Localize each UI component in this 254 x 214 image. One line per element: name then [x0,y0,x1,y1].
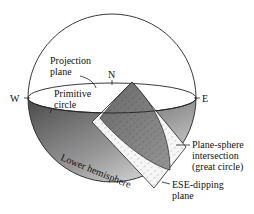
projection-plane-leader [80,76,96,88]
north-label: N [108,69,115,80]
dipping-plane-label-1: ESE-dipping [172,179,224,190]
stereonet-sphere-diagram: N W E Projection plane Primitive circle … [0,0,254,214]
projection-plane-label-1: Projection [50,55,91,66]
primitive-circle-label-1: Primitive [54,88,92,99]
dipping-plane-leader [162,182,170,184]
east-label: E [202,93,208,104]
projection-plane-label-2: plane [50,66,72,77]
intersection-label-1: Plane-sphere [192,139,244,150]
west-label: W [10,93,20,104]
dipping-plane-label-2: plane [172,190,194,201]
intersection-label-2: intersection [192,150,239,161]
intersection-label-3: (great circle) [192,161,243,173]
primitive-circle-label-2: circle [54,99,77,110]
